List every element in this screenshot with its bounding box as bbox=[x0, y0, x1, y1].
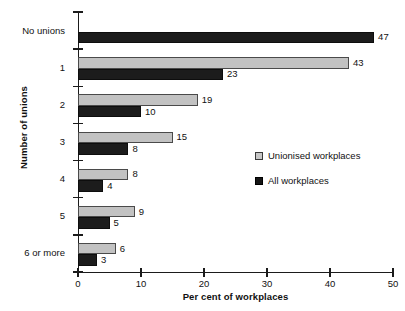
bar-value-label: 8 bbox=[132, 168, 137, 179]
bar-value-label: 5 bbox=[114, 217, 119, 228]
legend-item: Unionised workplaces bbox=[255, 150, 360, 161]
x-axis-line bbox=[78, 272, 393, 273]
bar-all bbox=[78, 254, 97, 266]
bar-unionised bbox=[78, 57, 349, 69]
y-tick-mark bbox=[73, 86, 83, 87]
bar-value-label: 10 bbox=[145, 106, 156, 117]
bar-value-label: 4 bbox=[107, 180, 112, 191]
y-tick-mark bbox=[73, 160, 83, 161]
bar-value-label: 8 bbox=[132, 143, 137, 154]
y-category-label: 4 bbox=[60, 173, 65, 184]
legend-item: All workplaces bbox=[255, 175, 360, 186]
x-tick-mark bbox=[392, 268, 393, 277]
x-axis-title: Per cent of workplaces bbox=[78, 291, 393, 302]
y-category-label: 1 bbox=[60, 62, 65, 73]
x-tick-label: 10 bbox=[129, 278, 153, 289]
bar-unionised bbox=[78, 132, 173, 144]
bar-all bbox=[78, 69, 223, 81]
bar-chart: Number of unions Per cent of workplaces … bbox=[0, 0, 405, 311]
chart-legend: Unionised workplacesAll workplaces bbox=[255, 150, 360, 200]
bar-unionised bbox=[78, 206, 135, 218]
bar-value-label: 9 bbox=[139, 206, 144, 217]
bar-all bbox=[78, 217, 110, 229]
y-tick-mark bbox=[73, 271, 83, 272]
x-tick-label: 20 bbox=[192, 278, 216, 289]
y-tick-mark bbox=[73, 48, 83, 49]
y-category-label: 3 bbox=[60, 136, 65, 147]
legend-swatch-icon bbox=[255, 152, 263, 160]
bar-all bbox=[78, 143, 128, 155]
x-tick-label: 30 bbox=[255, 278, 279, 289]
y-tick-mark bbox=[73, 234, 83, 235]
bar-all bbox=[78, 180, 103, 192]
y-category-label: No unions bbox=[22, 25, 65, 36]
bar-all bbox=[78, 32, 374, 44]
bar-all bbox=[78, 106, 141, 118]
legend-swatch-icon bbox=[255, 177, 263, 185]
legend-label: All workplaces bbox=[268, 175, 329, 186]
y-category-label: 6 or more bbox=[24, 247, 65, 258]
x-tick-mark bbox=[266, 268, 267, 277]
bar-unionised bbox=[78, 243, 116, 255]
bar-value-label: 43 bbox=[353, 57, 364, 68]
y-category-label: 5 bbox=[60, 210, 65, 221]
x-tick-label: 40 bbox=[318, 278, 342, 289]
y-tick-mark bbox=[73, 197, 83, 198]
bar-value-label: 6 bbox=[120, 243, 125, 254]
bar-value-label: 47 bbox=[378, 31, 389, 42]
y-axis-title: Number of unions bbox=[18, 43, 29, 213]
bar-value-label: 15 bbox=[177, 131, 188, 142]
bar-unionised bbox=[78, 169, 128, 181]
y-category-label: 2 bbox=[60, 99, 65, 110]
x-tick-label: 0 bbox=[66, 278, 90, 289]
bar-value-label: 19 bbox=[202, 94, 213, 105]
x-tick-mark bbox=[140, 268, 141, 277]
legend-label: Unionised workplaces bbox=[268, 150, 360, 161]
y-tick-mark bbox=[73, 123, 83, 124]
x-tick-mark bbox=[329, 268, 330, 277]
x-tick-label: 50 bbox=[381, 278, 405, 289]
y-tick-mark bbox=[73, 11, 83, 12]
bar-unionised bbox=[78, 94, 198, 106]
bar-value-label: 3 bbox=[101, 254, 106, 265]
bar-value-label: 23 bbox=[227, 68, 238, 79]
x-tick-mark bbox=[203, 268, 204, 277]
